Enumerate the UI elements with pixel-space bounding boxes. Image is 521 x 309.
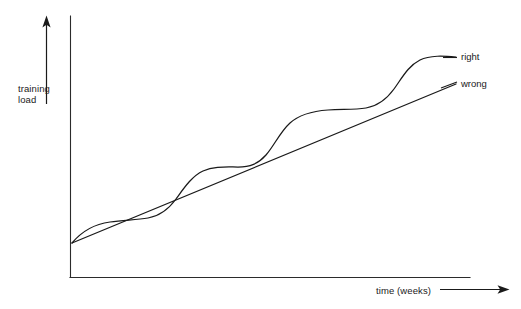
series-label-right: right xyxy=(461,51,479,62)
y-axis-label-line-2: load xyxy=(18,94,50,105)
series-line-right xyxy=(72,56,456,243)
series-label-wrong: wrong xyxy=(461,78,487,89)
x-axis-label: time (weeks) xyxy=(376,285,431,296)
y-axis-label: training load xyxy=(18,83,50,106)
training-load-diagram: training load time (weeks) right wrong xyxy=(0,0,521,309)
y-axis-label-line-1: training xyxy=(18,83,50,94)
series-line-wrong xyxy=(72,84,456,243)
chart-canvas xyxy=(0,0,521,309)
